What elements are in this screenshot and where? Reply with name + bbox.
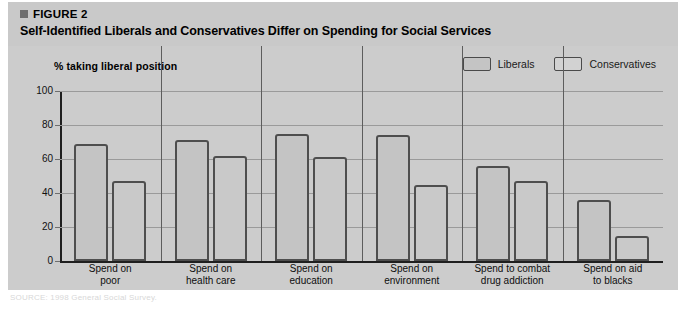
y-axis-tick-label: 20 bbox=[42, 222, 53, 232]
y-axis-tick-label: 40 bbox=[42, 188, 53, 198]
bar-conservatives bbox=[213, 156, 247, 261]
bar-conservatives bbox=[514, 181, 548, 261]
category-label: Spend onhealth care bbox=[161, 263, 262, 287]
category-label-line: Spend on bbox=[261, 263, 362, 275]
legend-item-liberals: Liberals bbox=[463, 57, 535, 71]
bar-liberals bbox=[175, 140, 209, 261]
y-axis-tick-label: 60 bbox=[42, 154, 53, 164]
chart-panel: Liberals Conservatives % taking liberal … bbox=[8, 46, 678, 290]
category-label: Spend to combatdrug addiction bbox=[462, 263, 563, 287]
y-axis-tick-mark bbox=[55, 261, 60, 262]
category-label-line: drug addiction bbox=[462, 275, 563, 287]
plot-area: 020406080100 bbox=[60, 91, 663, 261]
bar-liberals bbox=[275, 134, 309, 262]
y-axis-tick-label: 100 bbox=[36, 86, 53, 96]
category-label: Spend oneducation bbox=[261, 263, 362, 287]
category-label-line: health care bbox=[161, 275, 262, 287]
category-label: Spend onpoor bbox=[60, 263, 161, 287]
figure-header: FIGURE 2 Self-Identified Liberals and Co… bbox=[8, 2, 678, 46]
bar-conservatives bbox=[615, 236, 649, 262]
figure-title: Self-Identified Liberals and Conservativ… bbox=[20, 24, 672, 39]
bar-liberals bbox=[577, 200, 611, 261]
category-label: Spend onenvironment bbox=[362, 263, 463, 287]
group-separator bbox=[563, 46, 564, 261]
y-axis-tick-label: 0 bbox=[47, 256, 53, 266]
category-label-line: Spend on bbox=[161, 263, 262, 275]
group-separator bbox=[261, 46, 262, 261]
bar-conservatives bbox=[112, 181, 146, 261]
chart-legend: Liberals Conservatives bbox=[463, 57, 656, 71]
conservatives-swatch-icon bbox=[554, 57, 582, 71]
bar-liberals bbox=[376, 135, 410, 261]
bar-liberals bbox=[74, 144, 108, 261]
liberals-swatch-icon bbox=[463, 57, 491, 71]
y-axis-tick-mark bbox=[55, 125, 60, 126]
category-label-line: Spend on bbox=[362, 263, 463, 275]
category-label-line: poor bbox=[60, 275, 161, 287]
legend-item-conservatives: Conservatives bbox=[554, 57, 656, 71]
group-separator bbox=[462, 46, 463, 261]
y-axis-tick-mark bbox=[55, 193, 60, 194]
y-axis-tick-mark bbox=[55, 91, 60, 92]
square-bullet-icon bbox=[20, 10, 28, 18]
category-label-line: to blacks bbox=[563, 275, 664, 287]
figure-label-row: FIGURE 2 bbox=[20, 6, 672, 21]
category-label-line: environment bbox=[362, 275, 463, 287]
legend-label-liberals: Liberals bbox=[498, 59, 535, 70]
category-label-line: education bbox=[261, 275, 362, 287]
y-axis-tick-label: 80 bbox=[42, 120, 53, 130]
group-separator bbox=[161, 46, 162, 261]
bar-liberals bbox=[476, 166, 510, 261]
group-separator bbox=[362, 46, 363, 261]
category-label: Spend on aidto blacks bbox=[563, 263, 664, 287]
legend-label-conservatives: Conservatives bbox=[589, 59, 656, 70]
bar-conservatives bbox=[414, 185, 448, 262]
source-note: SOURCE: 1998 General Social Survey. bbox=[10, 293, 157, 302]
y-axis-caption: % taking liberal position bbox=[54, 60, 177, 72]
y-axis-tick-mark bbox=[55, 159, 60, 160]
category-label-line: Spend to combat bbox=[462, 263, 563, 275]
category-label-line: Spend on aid bbox=[563, 263, 664, 275]
figure-label: FIGURE 2 bbox=[33, 8, 88, 20]
bar-conservatives bbox=[313, 157, 347, 261]
figure-panel: FIGURE 2 Self-Identified Liberals and Co… bbox=[0, 0, 686, 312]
y-axis-tick-mark bbox=[55, 227, 60, 228]
y-axis-line bbox=[60, 91, 62, 261]
x-axis-category-labels: Spend onpoorSpend onhealth careSpend one… bbox=[60, 263, 663, 293]
category-label-line: Spend on bbox=[60, 263, 161, 275]
